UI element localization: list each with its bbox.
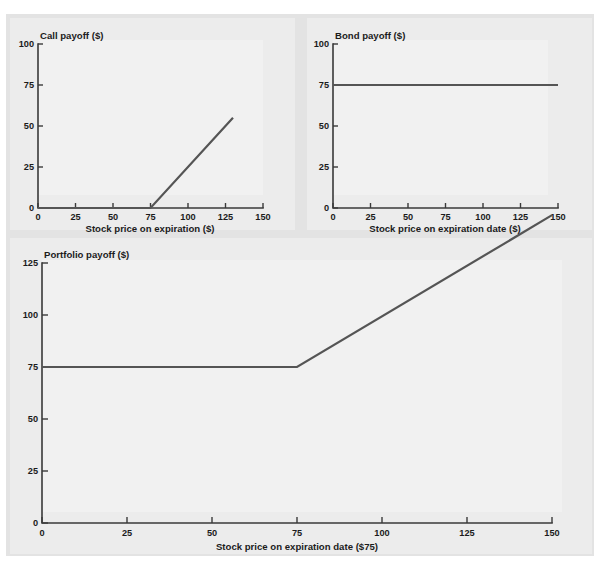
portfolio-payoff-svg: Portfolio payoff ($) 0 25 50 75 100 125: [10, 238, 592, 554]
portfolio-plot-area: [42, 260, 562, 512]
bond-x-tick-label: 0: [330, 212, 335, 222]
call-x-tick-label: 100: [180, 212, 195, 222]
call-x-tick-label: 0: [35, 212, 40, 222]
chart-panel-portfolio-payoff: Portfolio payoff ($) 0 25 50 75 100 125: [10, 238, 592, 554]
portfolio-x-tick-label: 75: [292, 528, 302, 538]
portfolio-y-tick-label: 100: [23, 310, 38, 320]
call-x-axis-caption: Stock price on expiration ($): [85, 223, 214, 234]
portfolio-y-tick-label: 0: [33, 518, 38, 528]
chart-panel-bond-payoff: Bond payoff ($) 0 25 50 75 100: [307, 18, 592, 230]
portfolio-y-tick-label: 25: [28, 466, 38, 476]
bond-payoff-svg: Bond payoff ($) 0 25 50 75 100: [307, 18, 592, 230]
call-y-tick-label: 25: [24, 162, 34, 172]
portfolio-y-axis-title: Portfolio payoff ($): [44, 249, 129, 260]
bond-y-tick-label: 0: [324, 203, 329, 213]
call-x-tick-label: 125: [218, 212, 233, 222]
chart-panel-call-payoff: Call payoff ($) 0 25 50 75 100: [10, 18, 295, 230]
bond-plot-area: [333, 40, 548, 195]
bond-y-tick-label: 100: [314, 39, 329, 49]
portfolio-y-tick-label: 125: [23, 258, 38, 268]
bond-x-tick-label: 50: [403, 212, 413, 222]
bond-x-axis-caption: Stock price on expiration date ($): [369, 223, 520, 234]
bond-y-tick-label: 50: [319, 121, 329, 131]
payoff-diagram-figure: Call payoff ($) 0 25 50 75 100: [0, 0, 602, 564]
portfolio-x-tick-label: 0: [39, 528, 44, 538]
bond-y-tick-label: 25: [319, 162, 329, 172]
bond-y-tick-label: 75: [319, 80, 329, 90]
portfolio-y-tick-label: 50: [28, 414, 38, 424]
portfolio-x-tick-label: 50: [207, 528, 217, 538]
bond-x-tick-label: 75: [440, 212, 450, 222]
portfolio-x-axis-caption: Stock price on expiration date ($75): [216, 541, 378, 552]
bond-x-tick-label: 25: [365, 212, 375, 222]
bond-x-tick-label: 125: [513, 212, 528, 222]
call-plot-area: [38, 40, 263, 195]
portfolio-y-tick-label: 75: [28, 362, 38, 372]
call-payoff-svg: Call payoff ($) 0 25 50 75 100: [10, 18, 295, 230]
bond-y-axis-title: Bond payoff ($): [335, 30, 405, 41]
call-y-tick-label: 100: [19, 39, 34, 49]
call-x-tick-label: 50: [108, 212, 118, 222]
call-x-tick-label: 25: [70, 212, 80, 222]
call-y-tick-label: 0: [29, 203, 34, 213]
bond-x-tick-label: 150: [550, 212, 565, 222]
call-x-tick-label: 150: [255, 212, 270, 222]
portfolio-x-tick-label: 100: [374, 528, 389, 538]
portfolio-x-tick-label: 125: [459, 528, 474, 538]
bond-x-tick-label: 100: [475, 212, 490, 222]
portfolio-x-tick-label: 150: [544, 528, 559, 538]
call-y-axis-title: Call payoff ($): [40, 30, 103, 41]
call-y-tick-label: 50: [24, 121, 34, 131]
call-x-tick-label: 75: [145, 212, 155, 222]
portfolio-x-tick-label: 25: [122, 528, 132, 538]
call-y-tick-label: 75: [24, 80, 34, 90]
